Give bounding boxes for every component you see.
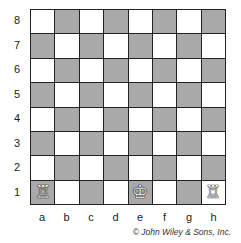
square-e4	[129, 108, 152, 131]
square-c1	[80, 181, 103, 204]
rank-label: 4	[12, 112, 22, 124]
square-c4	[80, 108, 103, 131]
white-king-icon: ♔	[132, 183, 148, 201]
square-c7	[80, 34, 103, 57]
square-h3	[202, 132, 225, 155]
square-g4	[177, 108, 200, 131]
square-b3	[55, 132, 78, 155]
file-label: e	[128, 211, 152, 223]
square-g5	[177, 83, 200, 106]
square-g7	[177, 34, 200, 57]
square-e5	[129, 83, 152, 106]
square-d6	[104, 59, 127, 82]
square-e1: ♔	[129, 181, 152, 204]
square-g8	[177, 10, 200, 33]
square-d8	[104, 10, 127, 33]
square-a6	[31, 59, 54, 82]
square-g6	[177, 59, 200, 82]
square-e3	[129, 132, 152, 155]
square-c6	[80, 59, 103, 82]
square-a8	[31, 10, 54, 33]
chessboard: ♖♔♖	[30, 9, 226, 205]
square-b5	[55, 83, 78, 106]
square-c8	[80, 10, 103, 33]
square-g3	[177, 132, 200, 155]
file-label: a	[30, 211, 54, 223]
square-b4	[55, 108, 78, 131]
square-h8	[202, 10, 225, 33]
square-h5	[202, 83, 225, 106]
square-a7	[31, 34, 54, 57]
square-c2	[80, 156, 103, 179]
square-b7	[55, 34, 78, 57]
file-label: f	[153, 211, 177, 223]
square-c3	[80, 132, 103, 155]
square-b2	[55, 156, 78, 179]
file-label: h	[202, 211, 226, 223]
file-label: d	[104, 211, 128, 223]
square-f3	[153, 132, 176, 155]
rank-label: 2	[12, 161, 22, 173]
rank-label: 5	[12, 88, 22, 100]
square-d7	[104, 34, 127, 57]
rank-label: 1	[12, 186, 22, 198]
square-h6	[202, 59, 225, 82]
white-rook-icon: ♖	[205, 183, 221, 201]
square-f8	[153, 10, 176, 33]
white-rook-icon: ♖	[35, 183, 51, 201]
file-label: b	[55, 211, 79, 223]
square-f7	[153, 34, 176, 57]
copyright-credit: © John Wiley & Sons, Inc.	[133, 227, 231, 237]
square-h1: ♖	[202, 181, 225, 204]
square-d3	[104, 132, 127, 155]
square-d5	[104, 83, 127, 106]
square-a5	[31, 83, 54, 106]
square-a4	[31, 108, 54, 131]
rank-label: 6	[12, 63, 22, 75]
square-f1	[153, 181, 176, 204]
square-f5	[153, 83, 176, 106]
square-h7	[202, 34, 225, 57]
square-f6	[153, 59, 176, 82]
square-f2	[153, 156, 176, 179]
square-b8	[55, 10, 78, 33]
file-label: g	[177, 211, 201, 223]
square-d4	[104, 108, 127, 131]
square-c5	[80, 83, 103, 106]
square-e7	[129, 34, 152, 57]
square-a1: ♖	[31, 181, 54, 204]
square-f4	[153, 108, 176, 131]
square-a2	[31, 156, 54, 179]
square-a3	[31, 132, 54, 155]
square-g2	[177, 156, 200, 179]
file-label: c	[79, 211, 103, 223]
rank-label: 8	[12, 14, 22, 26]
square-h4	[202, 108, 225, 131]
square-e2	[129, 156, 152, 179]
square-g1	[177, 181, 200, 204]
rank-label: 7	[12, 39, 22, 51]
square-h2	[202, 156, 225, 179]
square-d2	[104, 156, 127, 179]
square-e8	[129, 10, 152, 33]
square-d1	[104, 181, 127, 204]
square-b6	[55, 59, 78, 82]
rank-label: 3	[12, 137, 22, 149]
square-b1	[55, 181, 78, 204]
square-e6	[129, 59, 152, 82]
